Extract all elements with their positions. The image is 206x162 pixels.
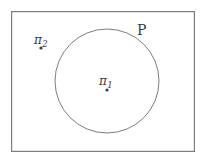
point-pi-2-label-subscript: 2 bbox=[42, 39, 47, 49]
point-pi-1-label-subscript: 1 bbox=[107, 80, 112, 90]
figure-canvas: π2 π1 P bbox=[0, 0, 206, 162]
point-pi-1-label: π1 bbox=[99, 75, 112, 87]
point-pi-1-label-base: π bbox=[99, 74, 107, 88]
point-pi-2-label-base: π bbox=[34, 33, 42, 47]
curve-label-P: P bbox=[137, 23, 146, 37]
point-pi-2-label: π2 bbox=[34, 34, 47, 46]
